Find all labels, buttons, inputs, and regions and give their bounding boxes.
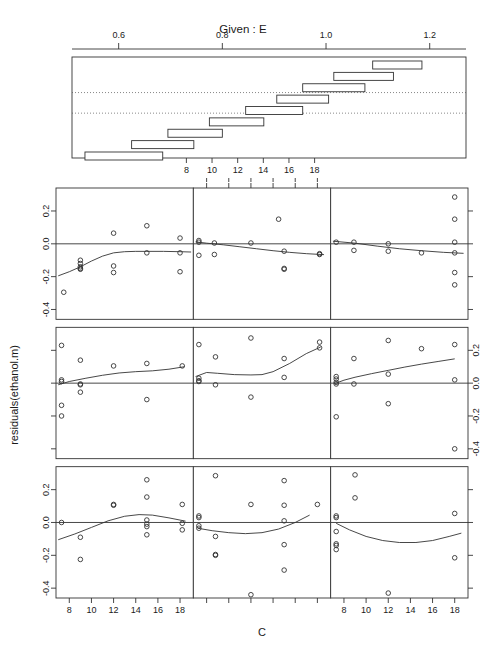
given-bottom-tick-label: 10 xyxy=(207,165,217,175)
panel-x-tick-label: 10 xyxy=(86,605,96,615)
panel-x-tick-label: 16 xyxy=(428,605,438,615)
panel-x-tick-label: 16 xyxy=(153,605,163,615)
given-interval-bar xyxy=(85,152,163,160)
given-interval-bar xyxy=(246,107,303,115)
panel-x-tick-label: 12 xyxy=(109,605,119,615)
panel-x-tick-label: 18 xyxy=(175,605,185,615)
given-interval-bar xyxy=(277,95,329,103)
panel-x-tick-label: 8 xyxy=(67,605,72,615)
given-interval-bar xyxy=(334,72,394,80)
scatter-panel-r3c1 xyxy=(56,467,193,598)
panel-y-tick-label: 0.0 xyxy=(41,516,51,529)
panel-x-tick-label: 14 xyxy=(131,605,141,615)
given-top-tick-label: 1.2 xyxy=(423,30,436,40)
panel-x-tick-label: 8 xyxy=(341,605,346,615)
scatter-panel-r3c3 xyxy=(331,467,468,598)
given-interval-bar xyxy=(168,129,222,137)
panel-y-tick-label: -0.4 xyxy=(41,302,51,318)
given-top-tick-label: 1.0 xyxy=(320,30,333,40)
scatter-panel-r1c3 xyxy=(331,188,468,319)
y-axis-title: residuals(ethanol.m) xyxy=(8,345,20,445)
given-bottom-tick-label: 14 xyxy=(258,165,268,175)
panel-y-tick-label: -0.2 xyxy=(41,269,51,285)
panel-y-tick-label: -0.2 xyxy=(41,548,51,564)
coplot-figure: Given : E0.60.81.01.281012141618-0.4-0.2… xyxy=(0,0,487,671)
scatter-panel-r2c2 xyxy=(193,327,330,458)
coplot-svg: Given : E0.60.81.01.281012141618-0.4-0.2… xyxy=(0,0,487,671)
panel-y-tick-label: 0.0 xyxy=(471,377,481,390)
x-axis-title: C xyxy=(258,626,266,638)
panel-x-tick-label: 14 xyxy=(405,605,415,615)
panel-y-tick-label: 0.2 xyxy=(41,483,51,496)
panel-y-tick-label: 0.2 xyxy=(471,344,481,357)
scatter-panel-r2c3 xyxy=(331,327,468,458)
given-top-tick-label: 0.6 xyxy=(112,30,125,40)
panel-x-tick-label: 18 xyxy=(450,605,460,615)
panel-y-tick-label: -0.2 xyxy=(471,408,481,424)
given-bottom-tick-label: 16 xyxy=(284,165,294,175)
given-bottom-tick-label: 8 xyxy=(184,165,189,175)
given-bottom-tick-label: 12 xyxy=(233,165,243,175)
given-interval-bar xyxy=(373,61,422,69)
panel-y-tick-label: 0.2 xyxy=(41,205,51,218)
given-top-tick-label: 0.8 xyxy=(216,30,229,40)
scatter-panel-r2c1 xyxy=(56,327,193,458)
given-interval-bar xyxy=(209,118,263,126)
given-interval-bar xyxy=(303,84,365,92)
panel-y-tick-label: -0.4 xyxy=(471,441,481,457)
scatter-panel-r1c1 xyxy=(56,188,193,319)
panel-y-tick-label: -0.4 xyxy=(41,580,51,596)
panel-x-tick-label: 12 xyxy=(383,605,393,615)
panel-x-tick-label: 10 xyxy=(361,605,371,615)
panel-y-tick-label: 0.0 xyxy=(41,238,51,251)
given-interval-bar xyxy=(132,141,194,149)
given-bottom-tick-label: 18 xyxy=(310,165,320,175)
